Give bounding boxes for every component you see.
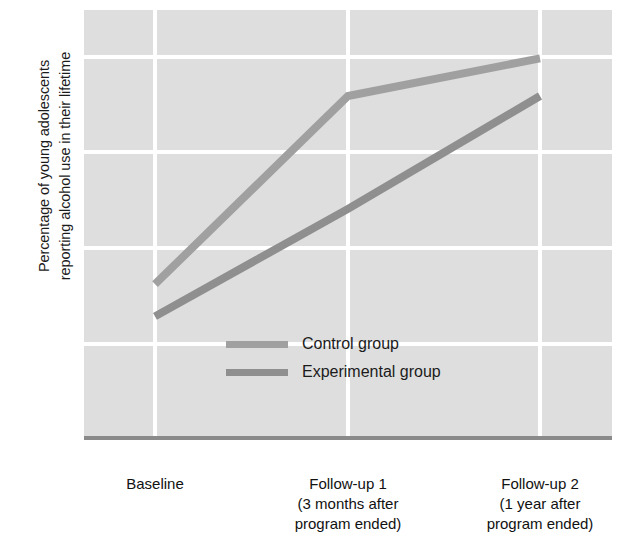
x-tick-followup2-line-3: program ended) — [445, 514, 635, 534]
x-tick-baseline-line-1: Baseline — [60, 474, 250, 494]
legend-swatch-control-group — [226, 341, 288, 348]
legend-label-experimental-group: Experimental group — [302, 363, 441, 381]
legend-item-control-group: Control group — [226, 330, 486, 358]
x-tick-followup2-line-1: Follow-up 2 — [445, 474, 635, 494]
x-tick-label-follow-up-2: Follow-up 2 (1 year after program ended) — [445, 474, 635, 534]
legend-swatch-experimental-group — [226, 369, 288, 376]
x-tick-followup1-line-2: (3 months after — [253, 494, 443, 514]
y-axis-title-line-1: Percentage of young adolescents — [34, 60, 55, 272]
legend-label-control-group: Control group — [302, 335, 399, 353]
y-axis-title: Percentage of young adolescents reportin… — [32, 0, 78, 381]
chart-legend: Control group Experimental group — [226, 330, 486, 386]
x-tick-followup1-line-3: program ended) — [253, 514, 443, 534]
x-tick-label-follow-up-1: Follow-up 1 (3 months after program ende… — [253, 474, 443, 534]
y-axis-title-line-2: reporting alcohol use in their lifetime — [55, 52, 76, 280]
x-tick-label-baseline: Baseline — [60, 474, 250, 494]
legend-item-experimental-group: Experimental group — [226, 358, 486, 386]
x-tick-followup2-line-2: (1 year after — [445, 494, 635, 514]
x-tick-followup1-line-1: Follow-up 1 — [253, 474, 443, 494]
chart-figure: Percentage of young adolescents reportin… — [0, 0, 637, 548]
